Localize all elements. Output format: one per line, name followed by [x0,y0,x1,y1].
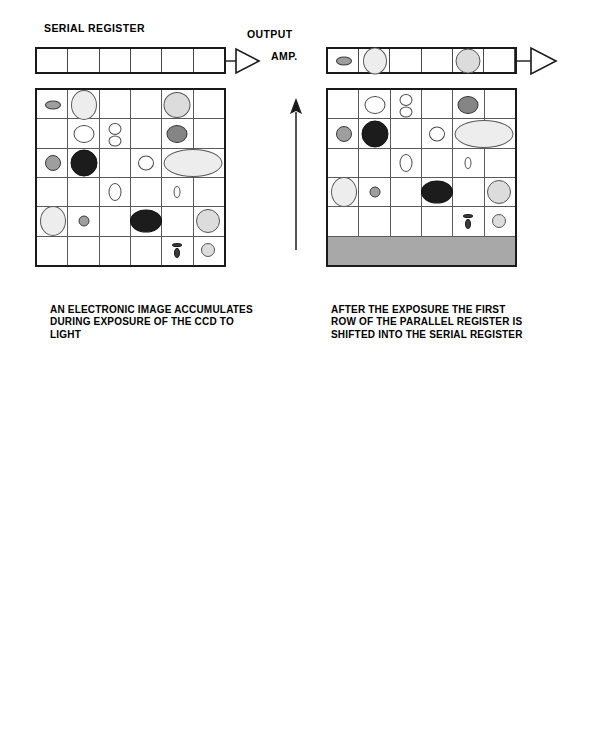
parallel-cell[interactable] [100,149,131,177]
parallel-cell[interactable] [485,178,515,206]
parallel-cell[interactable] [328,207,359,235]
parallel-cell[interactable] [422,178,453,206]
parallel-cell[interactable] [37,149,68,177]
panel-4: THE PROCESS CONTINUES UNTIL THE SERIAL R… [299,370,598,739]
parallel-cell[interactable] [68,237,99,265]
serial-cell[interactable] [390,49,421,72]
serial-cell[interactable] [328,49,359,72]
parallel-cell[interactable] [68,90,99,118]
serial-cell[interactable] [131,49,162,72]
parallel-cell[interactable] [453,178,484,206]
parallel-row[interactable] [328,119,515,148]
parallel-rows [328,90,515,265]
parallel-cell[interactable] [485,149,515,177]
parallel-cell[interactable] [131,119,162,147]
parallel-cell[interactable] [194,207,224,235]
parallel-cell[interactable] [37,207,68,235]
serial-cell[interactable] [162,49,193,72]
parallel-cell[interactable] [422,119,453,147]
parallel-cell[interactable] [162,178,193,206]
parallel-cell[interactable] [391,207,422,235]
parallel-cell[interactable] [328,119,359,147]
serial-cell[interactable] [453,49,484,72]
parallel-cell[interactable] [100,119,131,147]
parallel-cell[interactable] [131,149,162,177]
parallel-register-p1[interactable] [35,88,226,267]
serial-cell[interactable] [422,49,453,72]
parallel-cell[interactable] [485,207,515,235]
parallel-cell[interactable] [37,178,68,206]
parallel-cell[interactable] [37,90,68,118]
parallel-row-empty[interactable] [328,237,515,265]
serial-register-p2[interactable] [326,47,517,74]
parallel-row[interactable] [37,207,224,236]
parallel-cell[interactable] [359,149,390,177]
parallel-cell[interactable] [131,237,162,265]
parallel-row[interactable] [328,90,515,119]
parallel-cell[interactable] [453,90,484,118]
parallel-cell[interactable] [194,178,224,206]
parallel-row[interactable] [37,90,224,119]
parallel-cell[interactable] [162,90,193,118]
serial-cell[interactable] [68,49,99,72]
parallel-cell[interactable] [359,119,390,147]
parallel-row[interactable] [328,178,515,207]
serial-cell[interactable] [484,49,515,72]
serial-register-p1[interactable] [35,47,226,74]
serial-register-label: SERIAL REGISTER [44,22,145,35]
parallel-cell[interactable] [162,119,193,147]
parallel-register-p2[interactable] [326,88,517,267]
parallel-cell[interactable] [422,207,453,235]
parallel-cell[interactable] [453,119,484,147]
parallel-cell[interactable] [37,119,68,147]
parallel-row[interactable] [328,207,515,236]
parallel-row[interactable] [37,119,224,148]
parallel-cell[interactable] [391,178,422,206]
parallel-row[interactable] [37,178,224,207]
serial-cell[interactable] [194,49,224,72]
parallel-cell[interactable] [422,149,453,177]
parallel-cell[interactable] [328,90,359,118]
parallel-cell[interactable] [391,119,422,147]
parallel-cell[interactable] [391,90,422,118]
parallel-cell[interactable] [194,90,224,118]
parallel-cell[interactable] [68,178,99,206]
parallel-cell[interactable] [162,149,193,177]
parallel-cell[interactable] [162,207,193,235]
parallel-cell[interactable] [328,149,359,177]
parallel-cell[interactable] [328,178,359,206]
parallel-cell[interactable] [131,90,162,118]
parallel-cell[interactable] [453,207,484,235]
parallel-cell[interactable] [37,237,68,265]
serial-cell[interactable] [100,49,131,72]
parallel-row[interactable] [37,237,224,265]
parallel-cell[interactable] [453,149,484,177]
output-amplifier-p1 [226,47,274,75]
parallel-cell[interactable] [359,207,390,235]
parallel-cell[interactable] [485,119,515,147]
parallel-cell[interactable] [100,90,131,118]
parallel-cell[interactable] [100,207,131,235]
parallel-cell[interactable] [359,90,390,118]
serial-cell[interactable] [359,49,390,72]
serial-cell[interactable] [37,49,68,72]
parallel-cell[interactable] [100,178,131,206]
parallel-cell[interactable] [68,149,99,177]
parallel-cell[interactable] [131,207,162,235]
parallel-row[interactable] [328,149,515,178]
panel-3: THE FIRST PIXEL IS SHIFTED OUT OF THE SE… [0,370,299,739]
parallel-cell[interactable] [485,90,515,118]
parallel-cell[interactable] [162,237,193,265]
parallel-cell[interactable] [100,237,131,265]
parallel-cell[interactable] [68,207,99,235]
parallel-cell[interactable] [194,237,224,265]
parallel-row[interactable] [37,149,224,178]
parallel-cell[interactable] [391,149,422,177]
parallel-cell[interactable] [68,119,99,147]
parallel-cell[interactable] [194,149,224,177]
parallel-cell[interactable] [422,90,453,118]
parallel-cell[interactable] [194,119,224,147]
parallel-rows [37,90,224,265]
parallel-cell[interactable] [359,178,390,206]
parallel-cell[interactable] [131,178,162,206]
